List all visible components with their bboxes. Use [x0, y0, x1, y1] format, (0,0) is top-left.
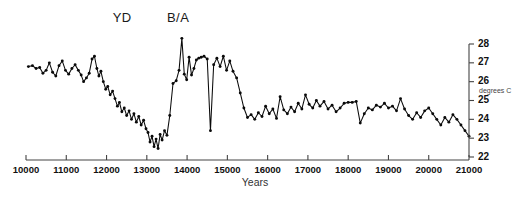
x-tick-label: 12000	[93, 164, 119, 175]
series-data-point	[403, 108, 406, 111]
series-data-point	[77, 69, 80, 72]
series-data-point	[41, 72, 44, 75]
x-tick-label: 17000	[295, 164, 321, 175]
series-data-point	[88, 72, 91, 75]
series-data-point	[363, 112, 366, 115]
series-data-point	[239, 92, 242, 95]
series-data-point	[308, 103, 311, 106]
series-data-point	[166, 134, 169, 137]
series-data-point	[261, 115, 264, 118]
series-data-point	[74, 63, 77, 66]
series-data-point	[304, 93, 307, 96]
series-data-point	[439, 124, 442, 127]
y-tick-label-layer: 22232425262728	[478, 38, 490, 162]
series-data-point	[212, 63, 215, 66]
series-data-point	[460, 124, 463, 127]
series-data-point	[27, 65, 30, 68]
series-data-point	[327, 108, 330, 111]
series-data-point	[70, 67, 73, 70]
y-tick-label: 25	[478, 94, 490, 105]
series-data-point	[102, 80, 105, 83]
series-data-point	[95, 67, 98, 70]
series-data-point	[135, 121, 138, 124]
series-data-point	[149, 140, 152, 143]
x-tick-label: 16000	[254, 164, 280, 175]
series-data-point	[264, 105, 267, 108]
series-data-point	[297, 102, 300, 105]
series-data-point	[225, 69, 228, 72]
series-data-point	[250, 113, 253, 116]
series-data-point	[268, 112, 271, 115]
series-data-point	[114, 97, 117, 100]
series-data-point	[106, 85, 109, 88]
series-data-point	[128, 109, 131, 112]
series-data-point	[407, 114, 410, 117]
series-data-point	[383, 102, 386, 105]
series-data-point	[415, 111, 418, 114]
series-data-point	[159, 133, 162, 136]
series-data-point	[99, 70, 102, 73]
series-data-point	[387, 107, 390, 110]
series-data-point	[195, 59, 198, 62]
series-data-point	[97, 75, 100, 78]
y-tick-label: 28	[478, 38, 490, 49]
series-data-point	[137, 115, 140, 118]
series-data-point	[153, 145, 156, 148]
series-data-point	[443, 116, 446, 119]
series-data-point	[335, 110, 338, 113]
series-data-point	[185, 78, 188, 81]
series-data-point	[140, 124, 143, 127]
series-data-point	[180, 37, 183, 40]
x-tick-label: 10000	[13, 164, 39, 175]
series-data-point	[155, 138, 158, 141]
series-data-point	[109, 93, 112, 96]
series-data-point	[54, 75, 57, 78]
series-data-point	[351, 101, 354, 104]
y-tick-label: 24	[478, 113, 490, 124]
x-axis-title: Years	[242, 176, 268, 188]
series-data-point	[161, 139, 164, 142]
series-data-point	[391, 105, 394, 108]
x-tick-label: 15000	[214, 164, 240, 175]
series-data-point	[395, 109, 398, 112]
series-data-point	[290, 106, 293, 109]
series-data-point	[192, 67, 195, 70]
x-tick-label: 19000	[375, 164, 401, 175]
series-data-point	[82, 80, 85, 83]
series-data-point	[190, 74, 193, 77]
series-data-point	[242, 107, 245, 110]
series-data-point	[423, 109, 426, 112]
series-data-point	[142, 119, 145, 122]
series-data-point	[157, 147, 160, 150]
series-data-point	[85, 76, 88, 79]
series-data-point	[232, 70, 235, 73]
series-data-point	[104, 88, 107, 91]
series-data-point	[253, 118, 256, 121]
x-tick-label: 11000	[53, 164, 79, 175]
y-tick-label: 26	[478, 75, 490, 86]
series-data-point	[123, 107, 126, 110]
data-series-layer	[27, 37, 470, 150]
series-data-point	[93, 55, 96, 58]
series-data-point	[343, 102, 346, 105]
series-data-point	[447, 121, 450, 124]
series-data-point	[51, 71, 54, 74]
chart-figure: YD B/A 100001100012000130001400015000160…	[0, 0, 524, 200]
x-tick-label: 13000	[134, 164, 160, 175]
series-data-point	[355, 100, 358, 103]
series-data-point	[311, 107, 314, 110]
series-data-point	[257, 111, 260, 114]
series-data-point	[300, 108, 303, 111]
series-data-point	[151, 135, 154, 138]
x-tick-label: 18000	[335, 164, 361, 175]
series-data-point	[375, 104, 378, 107]
series-data-point	[455, 118, 458, 121]
series-data-point	[435, 118, 438, 121]
y-tick-label: 22	[478, 151, 490, 162]
series-data-point	[61, 60, 64, 63]
x-tick-label: 20000	[416, 164, 442, 175]
series-data-point	[275, 117, 278, 120]
series-data-point	[319, 105, 322, 108]
y-tick-label: 27	[478, 56, 490, 67]
series-data-point	[31, 64, 34, 67]
